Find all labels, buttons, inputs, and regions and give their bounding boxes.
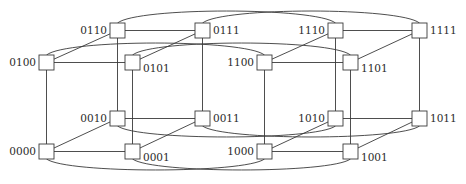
node-box — [125, 144, 140, 159]
node-1000: 1000 — [227, 144, 272, 159]
node-1111: 1111 — [412, 23, 457, 38]
node-box — [328, 111, 343, 126]
node-box — [195, 23, 210, 38]
node-label: 0010 — [80, 112, 107, 124]
node-label: 0001 — [143, 151, 170, 163]
hypercube-diagram: 0110011111101111010001011100110100100011… — [0, 0, 466, 184]
arc-edge-0110-1110 — [118, 11, 336, 23]
arc-edge-0100-1100 — [47, 43, 265, 55]
node-1101: 1101 — [343, 55, 388, 74]
node-box — [412, 111, 427, 126]
node-1011: 1011 — [412, 111, 457, 126]
arc-edge-0010-1010 — [118, 126, 336, 137]
node-0011: 0011 — [195, 111, 240, 126]
node-1100: 1100 — [227, 55, 272, 70]
node-label: 1100 — [227, 56, 254, 68]
edge-1101-1111 — [351, 31, 420, 63]
node-label: 1111 — [430, 24, 457, 36]
node-0101: 0101 — [125, 55, 170, 74]
node-label: 1000 — [227, 145, 254, 157]
node-label: 0111 — [213, 24, 240, 36]
node-label: 0011 — [213, 112, 240, 124]
node-label: 1110 — [298, 24, 325, 36]
node-box — [39, 55, 54, 70]
node-box — [110, 111, 125, 126]
node-0111: 0111 — [195, 23, 240, 38]
node-box — [257, 55, 272, 70]
node-1010: 1010 — [298, 111, 343, 126]
node-label: 0110 — [80, 24, 107, 36]
node-box — [195, 111, 210, 126]
node-label: 1011 — [430, 112, 457, 124]
node-0100: 0100 — [9, 55, 54, 70]
node-box — [110, 23, 125, 38]
node-label: 1001 — [361, 151, 388, 163]
node-0001: 0001 — [125, 144, 170, 163]
node-box — [257, 144, 272, 159]
node-1110: 1110 — [298, 23, 343, 38]
node-1001: 1001 — [343, 144, 388, 163]
arc-edge-0101-1101 — [133, 43, 351, 55]
node-label: 0100 — [9, 56, 36, 68]
node-0000: 0000 — [9, 144, 54, 159]
node-box — [39, 144, 54, 159]
node-label: 1101 — [361, 62, 388, 74]
node-0010: 0010 — [80, 111, 125, 126]
arc-edge-0111-1111 — [203, 11, 420, 23]
edge-1001-1011 — [351, 119, 420, 152]
node-label: 1010 — [298, 112, 325, 124]
node-box — [343, 144, 358, 159]
node-box — [412, 23, 427, 38]
arc-edge-0011-1011 — [203, 126, 420, 137]
node-box — [328, 23, 343, 38]
node-label: 0101 — [143, 62, 170, 74]
node-label: 0000 — [9, 145, 36, 157]
node-box — [343, 55, 358, 70]
node-0110: 0110 — [80, 23, 125, 38]
node-box — [125, 55, 140, 70]
